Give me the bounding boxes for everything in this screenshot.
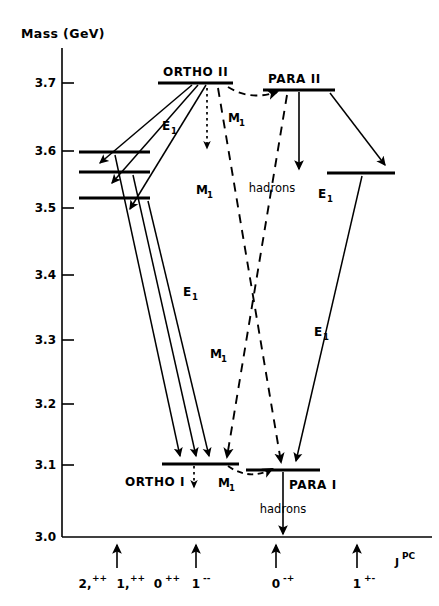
jpc-label-3: 1 --	[192, 573, 211, 591]
jpc-label-3-base: 1	[192, 577, 200, 591]
e1-transitions-chi-to-ortho1	[115, 155, 209, 456]
e1-label-1-sub: 1	[192, 292, 198, 302]
e1-chi2-to-ortho1	[115, 155, 180, 456]
jpc-label-4-base: 0	[272, 577, 280, 591]
m1-label-1: M 1	[196, 183, 213, 200]
hadrons-label-bottom: hadrons	[260, 502, 306, 516]
e1-label-2: E 1	[318, 187, 333, 204]
m1-para2-to-ortho1	[227, 95, 287, 457]
y-tick-label-5: 3.2	[35, 397, 56, 411]
m1-label-0: M 1	[228, 111, 245, 128]
e1-transitions-para	[296, 93, 385, 461]
label-ortho-ii: ORTHO II	[163, 65, 228, 79]
y-tick-label-4: 3.3	[35, 333, 56, 347]
hadrons-label-top: hadrons	[249, 181, 295, 195]
label-ortho-i: ORTHO I	[125, 475, 185, 489]
e1-chi0-to-ortho1	[148, 201, 209, 456]
y-tick-label-7: 3.0	[35, 530, 56, 544]
charmonium-level-diagram: 3.7 3.6 3.5 3.4 3.3 3.2 3.1 3.0 Mass (Ge…	[0, 0, 439, 606]
x-axis-title-sup: PC	[402, 551, 416, 561]
m1-label-3: M 1	[218, 476, 235, 493]
e1-hc-to-para1	[296, 176, 362, 461]
e1-label-0: E 1	[162, 119, 177, 136]
jpc-label-2: 0 ++	[154, 573, 180, 591]
jpc-label-4: 0 -+	[272, 573, 294, 591]
jpc-label-2-base: 0	[154, 577, 162, 591]
jpc-label-5-base: 1	[353, 577, 361, 591]
m1-label-1-sub: 1	[207, 190, 213, 200]
m1-transitions	[194, 87, 287, 487]
jpc-label-5-sup: +-	[364, 573, 376, 583]
m1-label-0-sub: 1	[239, 118, 245, 128]
x-axis-title-base: J	[394, 556, 399, 569]
y-tick-label-0: 3.7	[35, 76, 56, 90]
jpc-label-1-base: 1,	[117, 577, 130, 591]
y-tick-label-6: 3.1	[35, 458, 56, 472]
m1-label-3-sub: 1	[229, 483, 235, 493]
jpc-label-0: 2, ++	[79, 573, 108, 591]
label-para-i: PARA I	[289, 478, 337, 492]
e1-para2-to-hc	[330, 93, 385, 165]
x-axis-title: J PC	[394, 551, 416, 569]
hadron-decays	[283, 92, 299, 534]
jpc-label-2-sup: ++	[165, 573, 180, 583]
jpc-label-0-base: 2,	[79, 577, 92, 591]
m1-label-2-sub: 1	[221, 354, 227, 364]
jpc-label-3-sup: --	[203, 573, 211, 583]
m1-label-2: M 1	[210, 347, 227, 364]
jpc-labels: 2, ++ 1, ++ 0 ++ 1 -- 0 -+ 1 +-	[79, 573, 376, 591]
e1-label-3-base: E	[314, 325, 322, 339]
e1-ortho2-to-chi0	[130, 85, 206, 209]
e1-transitions-ortho2-to-chi	[100, 85, 206, 209]
jpc-label-5: 1 +-	[353, 573, 376, 591]
jpc-label-0-sup: ++	[92, 573, 107, 583]
e1-labels: E 1 E 1 E 1 E 1	[162, 119, 333, 342]
jpc-label-4-sup: -+	[283, 573, 294, 583]
y-tick-label-3: 3.4	[35, 268, 56, 282]
e1-chi1-to-ortho1	[133, 175, 196, 456]
axes	[62, 48, 432, 537]
y-tick-label-1: 3.6	[35, 144, 56, 158]
label-para-ii: PARA II	[268, 72, 321, 86]
jpc-label-1: 1, ++	[117, 573, 146, 591]
e1-label-2-sub: 1	[327, 194, 333, 204]
jpc-label-1-sup: ++	[130, 573, 145, 583]
y-axis-title: Mass (GeV)	[21, 26, 105, 41]
e1-label-2-base: E	[318, 187, 326, 201]
jpc-arrows	[117, 545, 357, 568]
e1-label-0-base: E	[162, 119, 170, 133]
m1-ortho2-to-para1	[218, 88, 281, 462]
m1-labels: M 1 M 1 M 1 M 1	[196, 111, 245, 493]
e1-label-3-sub: 1	[323, 332, 329, 342]
e1-label-1: E 1	[183, 285, 198, 302]
diagram-svg: 3.7 3.6 3.5 3.4 3.3 3.2 3.1 3.0 Mass (Ge…	[0, 0, 439, 606]
e1-label-1-base: E	[183, 285, 191, 299]
y-tick-labels: 3.7 3.6 3.5 3.4 3.3 3.2 3.1 3.0	[35, 76, 56, 544]
y-tick-label-2: 3.5	[35, 201, 56, 215]
e1-label-0-sub: 1	[171, 126, 177, 136]
